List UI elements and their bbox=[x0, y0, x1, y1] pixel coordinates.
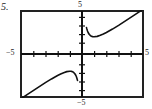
problem-number-label: 5. bbox=[1, 2, 9, 12]
plot-area bbox=[20, 10, 144, 98]
y-axis-min-label: −5 bbox=[77, 99, 86, 107]
x-axis-max-label: 5 bbox=[145, 49, 149, 57]
x-axis-min-label: −5 bbox=[6, 49, 15, 57]
graph-svg bbox=[20, 10, 144, 98]
figure-container: 5. bbox=[0, 0, 152, 109]
y-axis-max-label: 5 bbox=[78, 1, 82, 9]
